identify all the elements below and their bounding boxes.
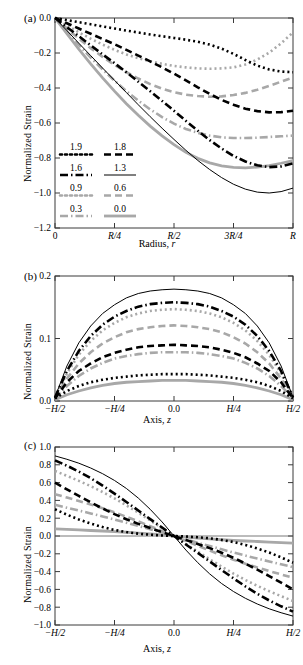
y-tick-label: 0.8 xyxy=(39,460,51,470)
panel-b: (b) Normalized Strain 0.00.10.2−H/2−H/40… xyxy=(0,258,303,433)
y-tick-label: −1.0 xyxy=(34,188,51,198)
y-tick-label: −0.2 xyxy=(34,48,51,58)
panel-b-plot: 0.00.10.2−H/2−H/40.0H/4H/2 xyxy=(0,258,303,433)
x-tick-label: H/2 xyxy=(285,628,301,638)
curve-0-3 xyxy=(55,352,293,398)
panel-b-xlabel: Axis, z xyxy=(22,414,292,425)
legend-label-0-3: 0.3 xyxy=(70,204,82,214)
x-tick-label: −H/4 xyxy=(104,404,125,414)
legend-label-0-9: 0.9 xyxy=(70,183,82,193)
y-tick-label: −0.8 xyxy=(34,603,51,613)
plot-frame xyxy=(55,276,293,401)
y-tick-label: 0.6 xyxy=(39,478,51,488)
panel-c-xlabel: Axis, z xyxy=(22,643,292,654)
y-tick-label: 1.0 xyxy=(39,442,51,452)
y-tick-label: 0.2 xyxy=(39,514,51,524)
curve-1-9 xyxy=(55,374,293,398)
panel-c: (c) Normalized Strain 1.00.80.60.40.20.0… xyxy=(0,433,303,665)
panel-b-xlabel-text: Axis, xyxy=(143,414,167,425)
panel-a-xlabel-var: r xyxy=(171,238,175,249)
curve-1-6 xyxy=(55,302,293,397)
y-tick-label: 0.2 xyxy=(39,271,51,281)
y-tick-label: −1.2 xyxy=(34,223,51,233)
x-tick-label: 0.0 xyxy=(168,404,180,414)
panel-a: (a) Normalized Strain 0.0−0.2−0.4−0.6−0.… xyxy=(0,0,303,258)
y-tick-label: −0.4 xyxy=(34,83,51,93)
x-tick-label: H/4 xyxy=(225,628,241,638)
y-tick-label: −0.2 xyxy=(34,549,51,559)
legend-label-1-6: 1.6 xyxy=(70,163,82,173)
legend-label-0-6: 0.6 xyxy=(114,183,126,193)
legend-label-0-0: 0.0 xyxy=(114,204,126,214)
panel-c-xlabel-var: z xyxy=(167,643,171,654)
legend-label-1-3: 1.3 xyxy=(114,163,126,173)
legend-label-1-8: 1.8 xyxy=(114,142,126,152)
y-tick-label: −0.6 xyxy=(34,585,51,595)
panel-a-xlabel-text: Radius, xyxy=(139,238,172,249)
panel-c-xlabel-text: Axis, xyxy=(143,643,167,654)
panel-c-plot: 1.00.80.60.40.20.0−0.2−0.4−0.6−0.8−1.0−H… xyxy=(0,433,303,665)
y-tick-label: −0.4 xyxy=(34,567,51,577)
x-tick-label: −H/2 xyxy=(45,404,66,414)
x-tick-label: −H/4 xyxy=(104,628,125,638)
y-tick-label: −0.6 xyxy=(34,118,51,128)
x-tick-label: H/4 xyxy=(225,404,241,414)
panel-b-xlabel-var: z xyxy=(167,414,171,425)
y-tick-label: 0.1 xyxy=(39,334,51,344)
panel-a-xlabel: Radius, r xyxy=(22,238,292,249)
curve-0-0 xyxy=(55,18,293,168)
y-tick-label: −0.8 xyxy=(34,153,51,163)
panel-a-plot: 0.0−0.2−0.4−0.6−0.8−1.0−1.20R/4R/23R/4R1… xyxy=(0,0,303,258)
curve-0-3 xyxy=(55,18,293,138)
x-tick-label: −H/2 xyxy=(45,628,66,638)
y-tick-label: 0.4 xyxy=(39,496,51,506)
legend-label-1-9: 1.9 xyxy=(70,142,82,152)
y-tick-label: 0.0 xyxy=(39,13,51,23)
x-tick-label: H/2 xyxy=(285,404,301,414)
y-tick-label: 0.0 xyxy=(39,531,51,541)
x-tick-label: 0.0 xyxy=(168,628,180,638)
